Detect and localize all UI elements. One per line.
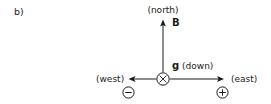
circle-x-into-page-icon xyxy=(157,73,169,85)
circle-minus-icon xyxy=(123,87,134,98)
vector-arrows-graphic xyxy=(0,0,271,104)
magnetic-field-arrow xyxy=(160,20,166,73)
circle-plus-icon xyxy=(217,87,228,98)
east-arrow xyxy=(170,76,224,82)
west-arrow xyxy=(129,76,157,82)
physics-vector-diagram: b) (north) B g (down) (west) (east) xyxy=(0,0,271,104)
